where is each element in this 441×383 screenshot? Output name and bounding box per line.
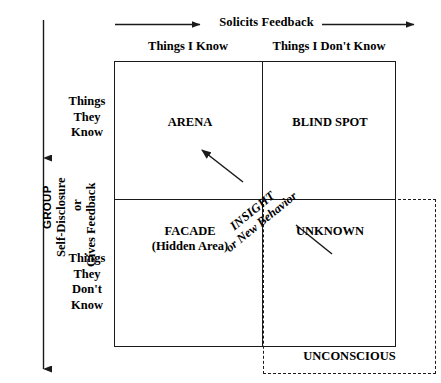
row-header-bottom-line-2: They	[62, 267, 112, 283]
or-label: or	[71, 199, 84, 211]
row-header-things-they-know: Things They Know	[62, 94, 112, 141]
self-disclosure-label: Self-Disclosure	[55, 177, 68, 257]
quadrant-blind-spot: BLIND SPOT	[265, 115, 395, 130]
gives-feedback-label: Gives Feedback	[85, 183, 98, 267]
row-header-bottom-line-4: Know	[62, 298, 112, 314]
quadrant-arena: ARENA	[120, 115, 260, 130]
left-axis: GROUP Self-Disclosure or Gives Feedback	[26, 14, 66, 376]
group-label: GROUP	[42, 185, 54, 229]
quadrant-arena-label: ARENA	[168, 115, 212, 129]
quadrant-blind-spot-label: BLIND SPOT	[292, 115, 367, 129]
column-header-things-i-know: Things I Know	[114, 38, 262, 54]
unconscious-label: UNCONSCIOUS	[263, 349, 436, 364]
row-header-top-line-2: They	[62, 110, 112, 126]
row-header-bottom-line-3: Don't	[62, 282, 112, 298]
solicits-feedback-label: Solicits Feedback	[215, 14, 317, 30]
row-header-top-line-3: Know	[62, 125, 112, 141]
quadrant-unknown-label: UNKNOWN	[296, 224, 364, 238]
column-header-things-i-dont-know: Things I Don't Know	[262, 38, 396, 54]
johari-window-diagram: Solicits Feedback Things I Know Things I…	[0, 0, 441, 383]
row-header-top-line-1: Things	[62, 94, 112, 110]
quadrant-unknown: UNKNOWN	[265, 224, 395, 239]
top-axis: Solicits Feedback	[113, 14, 420, 36]
quadrant-facade-label: FACADE	[164, 224, 215, 238]
